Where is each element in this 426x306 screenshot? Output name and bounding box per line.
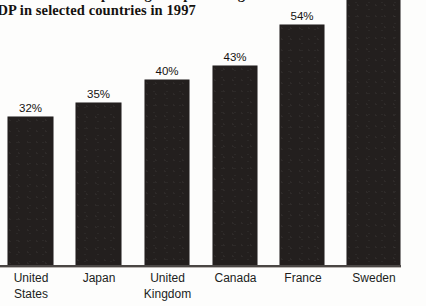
bar-united-states: [8, 117, 53, 266]
bar-value-france: 54%: [290, 10, 313, 22]
bar-group-united-kingdom: 40%: [145, 0, 189, 267]
category-label-canada: Canada: [208, 271, 263, 287]
bar-group-france: 54%: [280, 0, 324, 267]
bar-value-canada: 43%: [223, 51, 246, 63]
bar-group-united-states: 32%: [8, 0, 53, 267]
category-label-line: States: [4, 287, 58, 303]
x-axis-line: [0, 265, 401, 267]
bar-group-canada: 43%: [213, 0, 257, 267]
bar-value-united-kingdom: 40%: [155, 65, 178, 77]
category-label-line: France: [276, 271, 330, 287]
bar-canada: [213, 66, 257, 266]
plot-area: 32% 35% 40% 43% 54% 62%: [0, 0, 426, 267]
category-axis: United States Japan United Kingdom Canad…: [0, 271, 426, 306]
bar-chart-figure: Total health care spending as a percenta…: [0, 0, 426, 306]
category-label-line: Japan: [72, 271, 126, 287]
bar-value-united-states: 32%: [19, 102, 42, 114]
category-label-line: Sweden: [345, 271, 403, 287]
bar-value-japan: 35%: [87, 88, 110, 100]
bar-france: [280, 25, 324, 266]
bar-united-kingdom: [145, 80, 189, 266]
category-label-line: United: [4, 271, 58, 287]
category-label-japan: Japan: [72, 271, 126, 287]
category-label-sweden: Sweden: [345, 271, 403, 287]
category-label-line: Kingdom: [140, 287, 195, 303]
category-label-line: Canada: [208, 271, 263, 287]
bar-sweden: [347, 0, 400, 266]
category-label-united-kingdom: United Kingdom: [140, 271, 195, 302]
category-label-france: France: [276, 271, 330, 287]
bar-group-sweden: 62%: [347, 0, 400, 267]
category-label-line: United: [140, 271, 195, 287]
bar-group-japan: 35%: [76, 0, 121, 267]
bar-japan: [76, 103, 121, 266]
category-label-united-states: United States: [4, 271, 58, 302]
